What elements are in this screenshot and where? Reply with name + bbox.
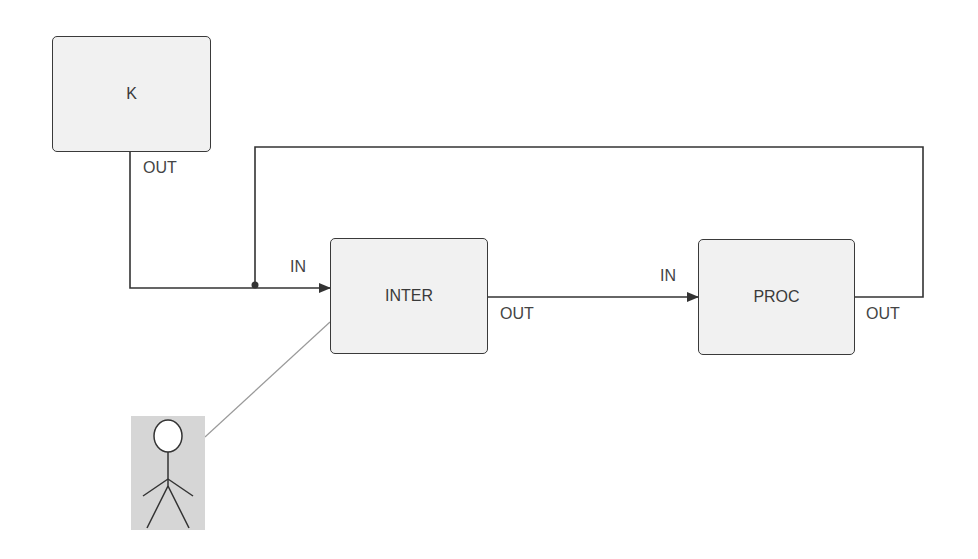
block-proc-label: PROC: [753, 288, 799, 306]
block-k-label: K: [126, 85, 137, 103]
proc-in-port-label: IN: [660, 267, 676, 285]
association-line[interactable]: [205, 322, 330, 437]
junction-dot: [252, 282, 259, 289]
inter-out-port-label: OUT: [500, 305, 534, 323]
block-proc[interactable]: PROC: [698, 239, 855, 355]
stick-figure-icon: [131, 416, 205, 530]
block-inter-label: INTER: [385, 287, 433, 305]
inter-in-port-label: IN: [290, 258, 306, 276]
actor-user[interactable]: [131, 416, 205, 530]
block-inter[interactable]: INTER: [330, 238, 488, 354]
k-out-port-label: OUT: [143, 159, 177, 177]
proc-out-port-label: OUT: [866, 305, 900, 323]
block-k[interactable]: K: [52, 36, 211, 152]
